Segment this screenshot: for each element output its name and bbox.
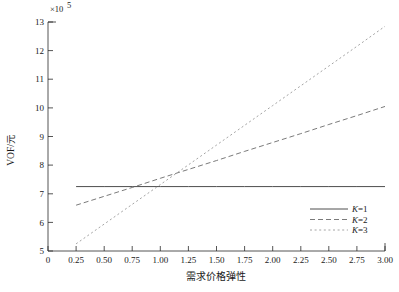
- x-tick-label: 1.50: [209, 255, 225, 265]
- x-tick-label: 2.25: [293, 255, 309, 265]
- legend-label-k2: K=2: [351, 215, 368, 225]
- x-tick-label: 0.75: [124, 255, 140, 265]
- chart-figure: 5 6 7 8 9 10 11 12 13 ×10 5 VOF/元: [0, 0, 399, 292]
- y-tick-label: 6: [40, 218, 45, 228]
- legend: K=1 K=2 K=3: [310, 204, 368, 235]
- y-axis-tick-labels: 5 6 7 8 9 10 11 12 13: [35, 17, 45, 256]
- x-tick-label: 0.25: [68, 255, 84, 265]
- x-tick-label: 1.00: [152, 255, 168, 265]
- x-axis-tick-labels: 0 0.25 0.50 0.75 1.00 1.25 1.50 1.75 2.0…: [46, 255, 394, 265]
- legend-rest-k2: =2: [358, 215, 368, 225]
- y-tick-label: 7: [40, 189, 45, 199]
- x-tick-label: 0.50: [96, 255, 112, 265]
- y-tick-label: 13: [35, 17, 45, 27]
- y-axis-title: VOF/元: [6, 134, 16, 166]
- x-tick-label: 3.00: [377, 255, 393, 265]
- x-tick-label: 1.75: [237, 255, 253, 265]
- x-tick-label: 0: [46, 255, 51, 265]
- data-series-group: [76, 26, 385, 244]
- legend-label-k1: K=1: [351, 204, 368, 214]
- y-tick-label: 8: [40, 160, 45, 170]
- legend-label-k3: K=3: [351, 225, 368, 235]
- y-tick-label: 10: [35, 103, 45, 113]
- x-tick-label: 2.50: [321, 255, 337, 265]
- axes-frame: [48, 22, 385, 251]
- chart-canvas: 5 6 7 8 9 10 11 12 13 ×10 5 VOF/元: [0, 0, 399, 292]
- series-line-k2: [76, 106, 385, 205]
- y-exponent-base: ×10: [50, 4, 63, 14]
- series-line-k3: [76, 26, 385, 244]
- y-tick-label: 11: [35, 74, 44, 84]
- legend-rest-k1: =1: [358, 204, 368, 214]
- x-tick-label: 2.75: [349, 255, 365, 265]
- x-tick-label: 1.25: [181, 255, 197, 265]
- x-tick-label: 2.00: [265, 255, 281, 265]
- y-tick-label: 5: [40, 246, 45, 256]
- x-axis-ticks: [48, 246, 385, 251]
- y-axis-exponent: ×10 5: [50, 0, 71, 14]
- y-tick-label: 12: [35, 46, 44, 56]
- y-axis-ticks: [48, 22, 53, 251]
- y-exponent-power: 5: [67, 0, 71, 10]
- y-tick-label: 9: [40, 132, 45, 142]
- legend-rest-k3: =3: [358, 225, 368, 235]
- x-axis-title: 需求价格弹性: [186, 270, 246, 282]
